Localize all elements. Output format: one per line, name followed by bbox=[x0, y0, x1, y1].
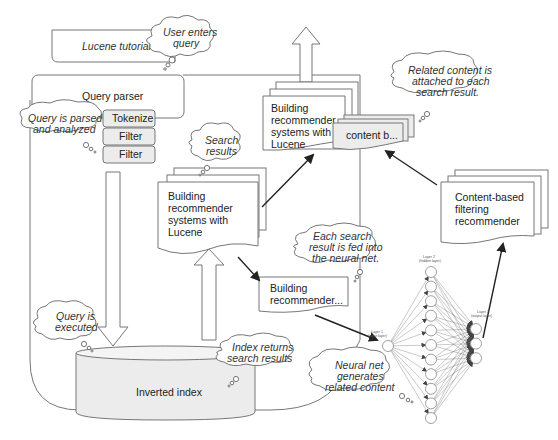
hidden-node bbox=[426, 413, 437, 424]
output-node bbox=[471, 324, 482, 335]
related-content-stack: content b... bbox=[333, 115, 414, 150]
cloud-text: query bbox=[173, 37, 200, 49]
cloud-text: search result. bbox=[416, 86, 479, 98]
neural-net bbox=[383, 267, 482, 424]
search-query-text: Lucene tutorial bbox=[82, 40, 152, 52]
layer2-sublabel: (hidden layer) bbox=[419, 259, 441, 263]
filter-label-2: Filter bbox=[119, 148, 143, 160]
tokenize-label: Tokenize bbox=[112, 112, 154, 124]
nn-connection bbox=[431, 334, 473, 404]
doc-line: Lucene bbox=[168, 226, 203, 238]
hidden-node bbox=[426, 296, 437, 307]
nn-connection bbox=[388, 291, 428, 346]
hidden-node bbox=[426, 369, 437, 380]
doc-line: filtering bbox=[455, 203, 489, 215]
nn-connection bbox=[431, 348, 473, 403]
arrow-cbf-to-content bbox=[386, 151, 437, 185]
nn-connection bbox=[388, 305, 427, 346]
nn-connection bbox=[431, 334, 474, 418]
cloud-attached: Related content is attached to each sear… bbox=[391, 51, 493, 122]
nn-connection bbox=[431, 333, 473, 388]
nn-connection bbox=[388, 346, 427, 385]
cbf-recommender-stack: Content-based filtering recommender bbox=[441, 170, 548, 244]
doc-line: systems with bbox=[271, 126, 331, 138]
nn-connection bbox=[388, 346, 426, 358]
output-node bbox=[471, 353, 482, 364]
nn-connection bbox=[388, 346, 428, 413]
query-parser-label: Query parser bbox=[82, 90, 144, 102]
doc-line: Building bbox=[168, 190, 206, 202]
hidden-node bbox=[426, 325, 437, 336]
hidden-node bbox=[426, 398, 437, 409]
doc-line: Lucene bbox=[271, 138, 306, 150]
nn-connection bbox=[388, 346, 426, 371]
nn-connection bbox=[388, 319, 426, 346]
nn-connection bbox=[388, 277, 428, 346]
nn-connection bbox=[431, 316, 471, 341]
nn-connection bbox=[431, 301, 473, 354]
input-node bbox=[383, 341, 394, 352]
cloud-text: and analyzed bbox=[33, 123, 97, 135]
doc-line: systems with bbox=[168, 214, 228, 226]
diagram-canvas: Lucene tutorial Query parser Tokenize Fi… bbox=[0, 0, 558, 440]
layer3-sublabel: (output layer) bbox=[471, 314, 492, 318]
doc-line: Content-based bbox=[455, 191, 524, 203]
hidden-node bbox=[426, 340, 437, 351]
nn-connection bbox=[431, 363, 473, 418]
layer1-sublabel: (input layer) bbox=[368, 334, 387, 338]
doc-line: recommender bbox=[271, 114, 336, 126]
hidden-node bbox=[426, 310, 437, 321]
cloud-text: results bbox=[206, 145, 238, 157]
hidden-node bbox=[426, 267, 437, 278]
doc-line: recommender bbox=[455, 215, 520, 227]
doc-line: recommender bbox=[168, 202, 233, 214]
doc-line: recommender... bbox=[270, 294, 343, 306]
inverted-index-label: Inverted index bbox=[136, 386, 203, 398]
nn-connection bbox=[388, 332, 426, 346]
doc-line: Building bbox=[271, 102, 309, 114]
cloud-text: executed bbox=[55, 321, 99, 333]
cloud-text: search results bbox=[227, 352, 293, 364]
nn-connection bbox=[431, 301, 471, 326]
arrow-nn-to-cbf bbox=[483, 244, 503, 338]
hidden-node bbox=[426, 281, 437, 292]
hidden-node bbox=[426, 354, 437, 365]
nn-connection bbox=[431, 329, 471, 330]
hidden-node bbox=[426, 383, 437, 394]
search-results-stack: Building recommender systems with Lucene bbox=[158, 168, 266, 254]
nn-connection bbox=[431, 272, 473, 325]
analysis-steps: Tokenize Filter Filter bbox=[103, 110, 155, 163]
content-tag-label: content b... bbox=[346, 129, 398, 141]
nn-connection bbox=[431, 287, 473, 340]
nn-connection bbox=[431, 348, 473, 418]
cloud-text: the neural net. bbox=[312, 252, 379, 264]
nn-connection bbox=[431, 316, 472, 355]
cloud-text: related content bbox=[325, 381, 396, 393]
output-node bbox=[471, 338, 482, 349]
doc-line: Building bbox=[270, 282, 308, 294]
output-up-arrow bbox=[292, 27, 320, 82]
filter-label-1: Filter bbox=[119, 130, 143, 142]
